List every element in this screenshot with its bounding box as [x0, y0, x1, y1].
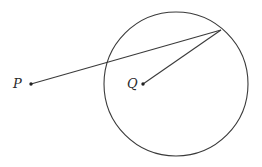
- point-p-label: P: [13, 77, 22, 90]
- segment-q-to-circle-point: [143, 30, 221, 84]
- point-p-dot: [29, 82, 32, 85]
- point-q-label: Q: [127, 77, 138, 90]
- point-q-dot: [141, 82, 144, 85]
- geometry-diagram: P Q: [0, 0, 262, 167]
- segment-p-to-tangent-point: [31, 30, 221, 84]
- circle: [104, 12, 248, 156]
